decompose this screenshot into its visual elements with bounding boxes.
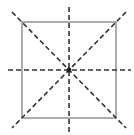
symmetry-diagram	[0, 0, 134, 135]
center-point	[67, 68, 72, 73]
diagram-canvas	[0, 0, 134, 135]
